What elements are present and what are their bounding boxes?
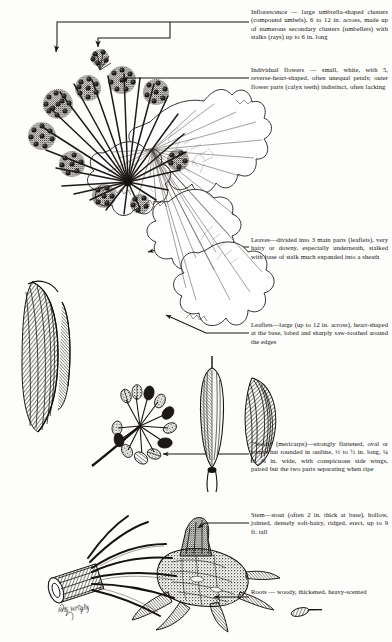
ripening-mericarps [111, 385, 178, 467]
caption-leaves: Leaves—divided into 3 main parts (leafle… [251, 236, 388, 261]
sheathing-base-figure [22, 281, 70, 432]
caption-stem: Stem—stout (often 2 in. thick at base), … [251, 511, 388, 536]
caption-seeds-mericarps: “Seeds” (mericarps)—strongly flattened, … [251, 440, 388, 474]
umbellet-fruits-figure [92, 385, 178, 467]
stem-section-figure [45, 516, 176, 620]
leader-lines [56, 22, 249, 597]
artist-signature: R.E.Wright [57, 602, 110, 622]
large-leaf-figure [88, 89, 275, 325]
mericarp-pair-figure [200, 356, 223, 492]
caption-leaflets: Leaflets—large (up to 12 in. across), he… [251, 321, 388, 346]
umbellets [28, 49, 189, 214]
caption-inflorescence: Inflorescence — large umbrella-shaped cl… [251, 8, 388, 42]
botanical-plate: Inflorescence — large umbrella-shaped cl… [0, 0, 392, 642]
compound-umbel-figure [28, 49, 189, 214]
umbellet-detail [91, 49, 112, 70]
detached-mericarp-figure [290, 603, 322, 618]
caption-roots: Roots — woody, thickened, heavy-scented [251, 588, 388, 596]
caption-individual-flowers: Individual flowers — small, white, with … [251, 66, 388, 91]
